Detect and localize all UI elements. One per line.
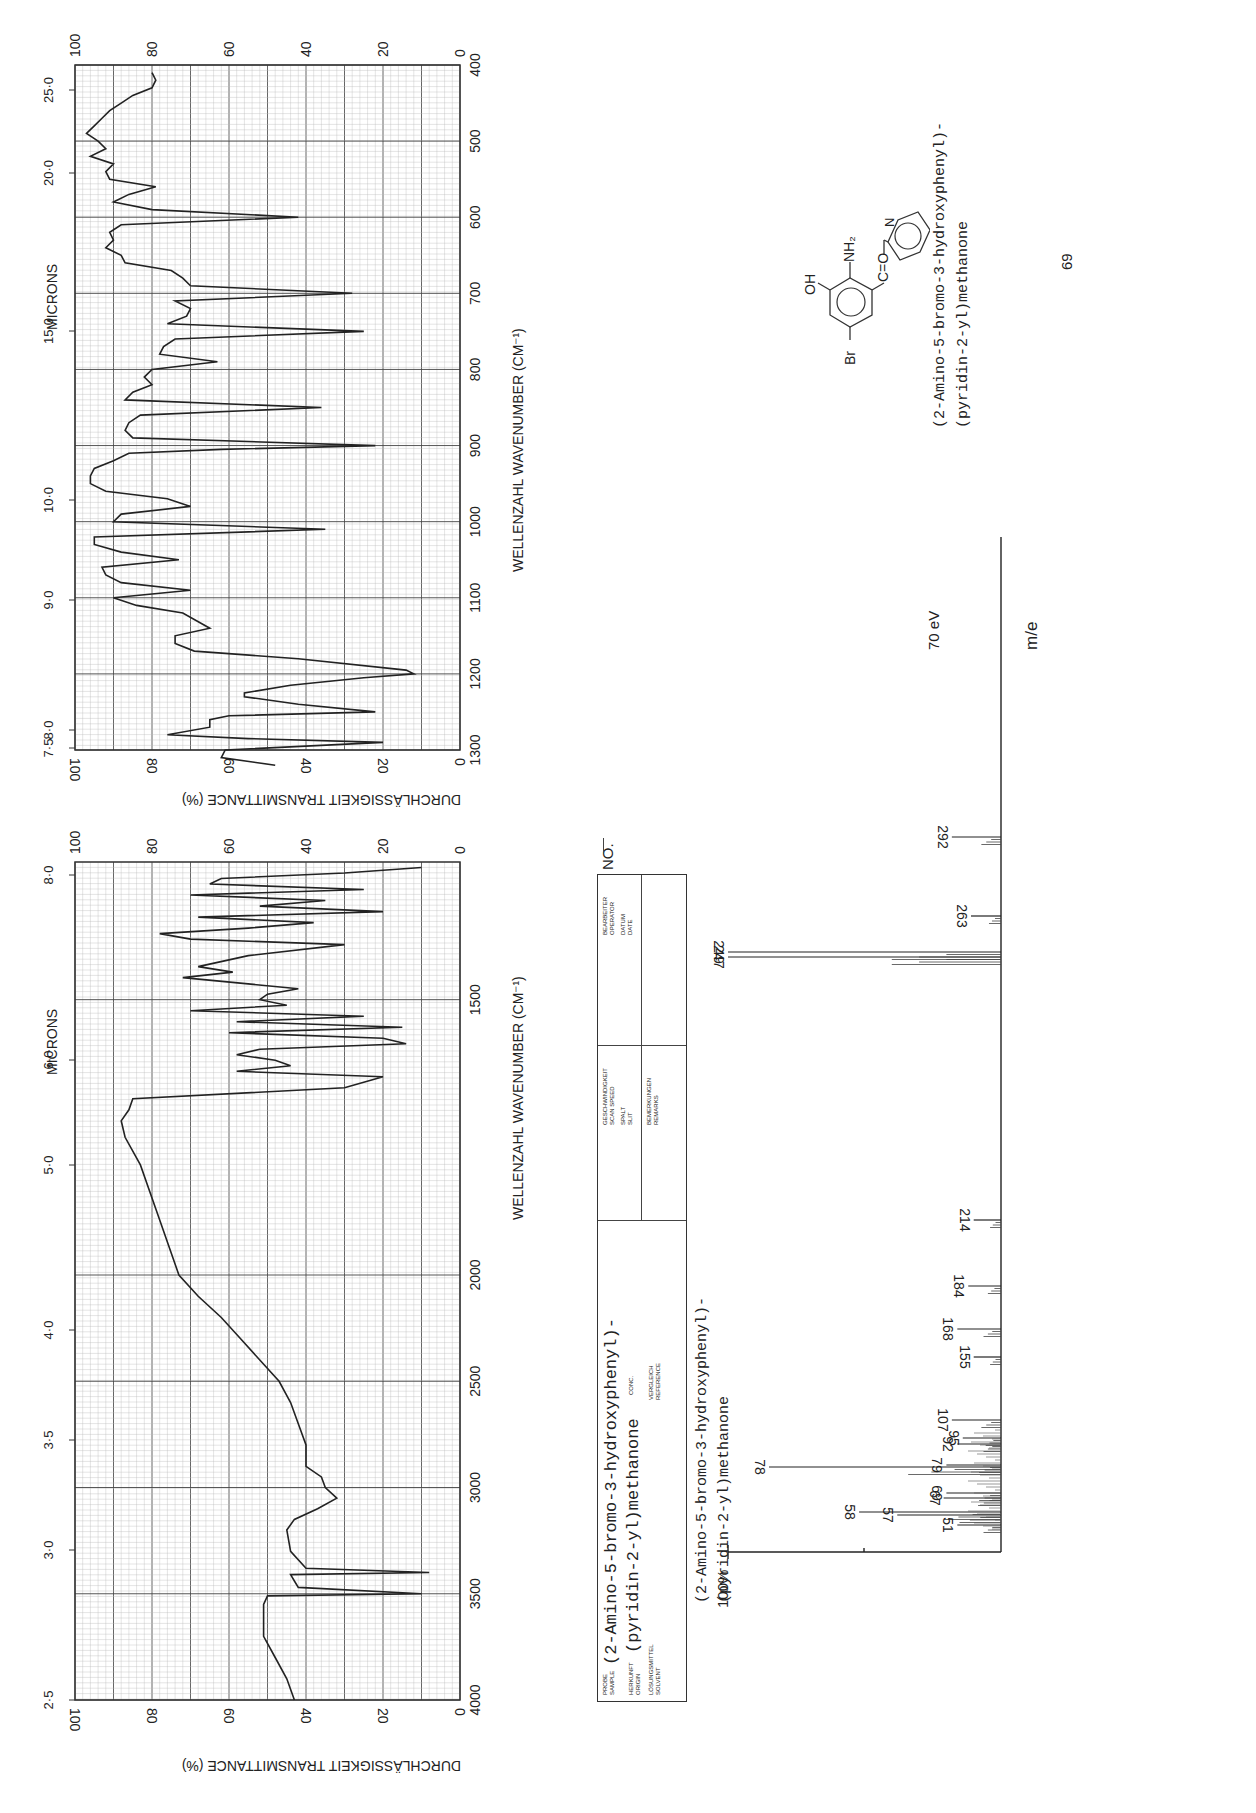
n-label: N (882, 218, 897, 227)
divider (598, 1220, 686, 1221)
svg-text:25·0: 25·0 (41, 77, 56, 103)
svg-text:20: 20 (375, 838, 391, 854)
ir-lower-wavenumber-label: WELLENZAHL WAVENUMBER (CM⁻¹) (510, 976, 526, 1220)
svg-text:292: 292 (935, 825, 951, 849)
svg-text:100: 100 (67, 33, 83, 57)
co-label: C=O (875, 253, 891, 282)
conc-label: CONC. (628, 1376, 634, 1395)
ir-lower-microns-label: MICRONS (44, 1009, 60, 1075)
sample-name-line2: (pyridin-2-yl)methanone (624, 1418, 643, 1653)
svg-text:800: 800 (467, 358, 483, 382)
svg-text:8·0: 8·0 (41, 721, 56, 740)
br-label: Br (842, 351, 858, 365)
ir-chart-upper: 4005006007008009001000110012001300100100… (0, 0, 600, 830)
svg-text:2000: 2000 (467, 1259, 483, 1290)
ms-title-line1: (2-Amino-5-bromo-3-hydroxyphenyl)- (694, 1297, 711, 1603)
svg-text:1500: 1500 (467, 984, 483, 1015)
date-label: DATUM DATE (620, 914, 634, 935)
scan-speed-label: GESCHWINDIGKEIT SCAN SPEED (602, 1068, 616, 1125)
svg-text:40: 40 (298, 41, 314, 57)
svg-text:100: 100 (67, 1708, 83, 1732)
svg-text:1200: 1200 (467, 658, 483, 689)
svg-text:3·5: 3·5 (41, 1431, 56, 1450)
svg-text:60: 60 (221, 758, 237, 774)
svg-text:3500: 3500 (467, 1578, 483, 1609)
svg-text:100: 100 (67, 758, 83, 782)
svg-text:0: 0 (452, 49, 468, 57)
svg-text:10·0: 10·0 (41, 487, 56, 513)
svg-text:1300: 1300 (467, 734, 483, 765)
compound-number: 69 (1058, 253, 1075, 270)
svg-text:0: 0 (452, 846, 468, 854)
svg-text:51: 51 (940, 1517, 956, 1533)
compound-name-line2: (pyridin-2-yl)methanone (955, 221, 972, 428)
molecular-structure: OH NH₂ C=O Br N (780, 180, 930, 360)
svg-text:0: 0 (452, 758, 468, 766)
svg-text:3000: 3000 (467, 1472, 483, 1503)
svg-text:80: 80 (144, 758, 160, 774)
svg-text:2500: 2500 (467, 1365, 483, 1396)
svg-text:9·0: 9·0 (41, 591, 56, 610)
operator-label: BEARBEITER OPERATOR (602, 897, 616, 935)
svg-text:107: 107 (935, 1408, 951, 1432)
svg-text:2·5: 2·5 (41, 1691, 56, 1710)
ir-upper-transmittance-label: DURCHLÄSSIGKEIT TRANSMITTANCE (%) (182, 792, 461, 808)
svg-text:400: 400 (467, 53, 483, 77)
svg-text:40: 40 (298, 1708, 314, 1724)
compound-name-line1: (2-Amino-5-bromo-3-hydroxyphenyl)- (932, 122, 949, 428)
svg-text:60: 60 (221, 41, 237, 57)
svg-text:78: 78 (752, 1459, 768, 1475)
divider (598, 1045, 686, 1046)
mass-spectrum: 5157586769787992951071551681842142472492… (700, 500, 1256, 1813)
svg-text:263: 263 (954, 904, 970, 928)
svg-text:69: 69 (929, 1485, 945, 1501)
svg-text:900: 900 (467, 434, 483, 458)
svg-text:4·0: 4·0 (41, 1321, 56, 1340)
ir-chart-lower: 1500200025003000350040001001008080606040… (0, 820, 600, 1813)
svg-text:3·0: 3·0 (41, 1541, 56, 1560)
origin-label: HERKUNFT ORIGIN (628, 1662, 642, 1695)
ms-mz-axis-label: m/e (1022, 622, 1042, 650)
svg-text:60: 60 (221, 1708, 237, 1724)
svg-text:40: 40 (298, 838, 314, 854)
reference-label: VERGLEICH REFERENCE (648, 1363, 662, 1400)
svg-text:214: 214 (957, 1208, 973, 1232)
svg-text:95: 95 (946, 1430, 962, 1446)
svg-text:1100: 1100 (467, 583, 483, 613)
svg-text:7·5: 7·5 (41, 739, 56, 758)
number-label: NO. (599, 843, 616, 870)
svg-text:155: 155 (957, 1345, 973, 1369)
mass-spectrum-plot: 5157586769787992951071551681842142472492… (700, 500, 1256, 1813)
svg-text:20: 20 (375, 1708, 391, 1724)
nh2-label: NH₂ (841, 236, 857, 262)
svg-text:80: 80 (144, 838, 160, 854)
svg-text:20: 20 (375, 41, 391, 57)
svg-text:0: 0 (452, 1708, 468, 1716)
svg-text:1000: 1000 (467, 506, 483, 537)
ir-lower-transmittance-label: DURCHLÄSSIGKEIT TRANSMITTANCE (%) (182, 1758, 461, 1774)
svg-text:60: 60 (221, 838, 237, 854)
svg-text:500: 500 (467, 129, 483, 153)
divider (641, 1045, 642, 1220)
svg-text:700: 700 (467, 281, 483, 305)
divider (641, 875, 642, 1045)
svg-text:58: 58 (842, 1504, 858, 1520)
oh-label: OH (802, 274, 818, 295)
ms-energy-label: 70 eV (925, 611, 942, 650)
slit-label: SPALT SLIT (620, 1107, 634, 1125)
svg-text:600: 600 (467, 205, 483, 229)
svg-text:40: 40 (298, 758, 314, 774)
solvent-label: LÖSUNGSMITTEL SOLVENT (648, 1644, 662, 1695)
sample-info-card: NO. BEARBEITER OPERATOR DATUM DATE GESCH… (597, 838, 692, 1708)
ms-title-line2: (pyridin-2-yl)methanone (716, 1396, 733, 1603)
sample-label: PROBE SAMPLE (602, 1671, 616, 1695)
svg-text:80: 80 (144, 1708, 160, 1724)
svg-text:5·0: 5·0 (41, 1156, 56, 1175)
structure-drawing (780, 180, 930, 360)
svg-text:4000: 4000 (467, 1684, 483, 1715)
svg-text:20·0: 20·0 (41, 160, 56, 186)
svg-text:8·0: 8·0 (41, 866, 56, 885)
sample-info-box: BEARBEITER OPERATOR DATUM DATE GESCHWIND… (597, 874, 687, 1702)
svg-text:20: 20 (375, 758, 391, 774)
ir-upper-wavenumber-label: WELLENZAHL WAVENUMBER (CM⁻¹) (510, 328, 526, 572)
